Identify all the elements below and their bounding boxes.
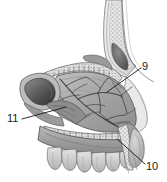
anatomical-figure: 9 10 11 bbox=[0, 0, 167, 182]
label-10: 10 bbox=[146, 161, 158, 172]
label-9: 9 bbox=[142, 61, 148, 72]
nasal-cavity-sagittal-illustration bbox=[0, 0, 167, 182]
label-11: 11 bbox=[7, 113, 18, 124]
